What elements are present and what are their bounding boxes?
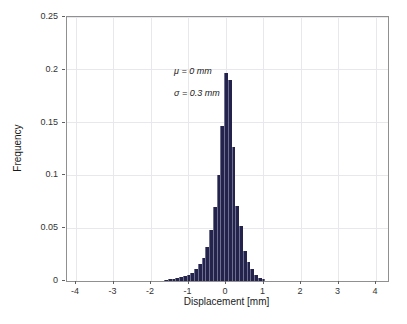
x-axis-tick <box>263 281 264 284</box>
y-tick-label: 0 <box>0 275 58 285</box>
x-tick-label: 2 <box>285 286 315 296</box>
gridline-vertical <box>376 17 377 281</box>
x-tick-label: -4 <box>60 286 90 296</box>
x-tick-label: 3 <box>323 286 353 296</box>
gridline-vertical <box>263 17 264 281</box>
x-tick-label: 0 <box>210 286 240 296</box>
histogram-figure: Frequency Displacement [mm] μ = 0 mm σ =… <box>0 0 407 324</box>
x-tick-label: -1 <box>173 286 203 296</box>
y-axis-tick <box>62 16 65 17</box>
x-tick-label: 4 <box>360 286 390 296</box>
y-tick-label: 0.15 <box>0 117 58 127</box>
gridline-horizontal <box>67 17 388 18</box>
y-tick-label: 0.25 <box>0 11 58 21</box>
gridline-vertical <box>188 17 189 281</box>
gridline-vertical <box>338 17 339 281</box>
x-axis-tick <box>150 281 151 284</box>
plot-area <box>66 16 389 282</box>
y-axis-tick <box>62 69 65 70</box>
x-axis-tick <box>300 281 301 284</box>
y-axis-tick <box>62 227 65 228</box>
annotation-sigma: σ = 0.3 mm <box>174 88 220 98</box>
x-tick-label: -2 <box>135 286 165 296</box>
x-axis-tick <box>338 281 339 284</box>
x-axis-tick <box>225 281 226 284</box>
x-axis-tick <box>188 281 189 284</box>
x-axis-label: Displacement [mm] <box>66 296 387 307</box>
x-tick-label: -3 <box>98 286 128 296</box>
gridline-horizontal <box>67 69 388 70</box>
y-tick-label: 0.05 <box>0 222 58 232</box>
y-axis-tick <box>62 280 65 281</box>
gridline-vertical <box>113 17 114 281</box>
y-tick-label: 0.1 <box>0 169 58 179</box>
annotation-mu: μ = 0 mm <box>174 66 212 76</box>
y-axis-tick <box>62 122 65 123</box>
x-axis-tick <box>375 281 376 284</box>
gridline-vertical <box>151 17 152 281</box>
y-axis-tick <box>62 174 65 175</box>
y-axis-label: Frequency <box>12 124 23 171</box>
gridline-vertical <box>76 17 77 281</box>
x-axis-tick <box>75 281 76 284</box>
x-tick-label: 1 <box>248 286 278 296</box>
gridline-vertical <box>301 17 302 281</box>
y-tick-label: 0.2 <box>0 64 58 74</box>
x-axis-tick <box>113 281 114 284</box>
